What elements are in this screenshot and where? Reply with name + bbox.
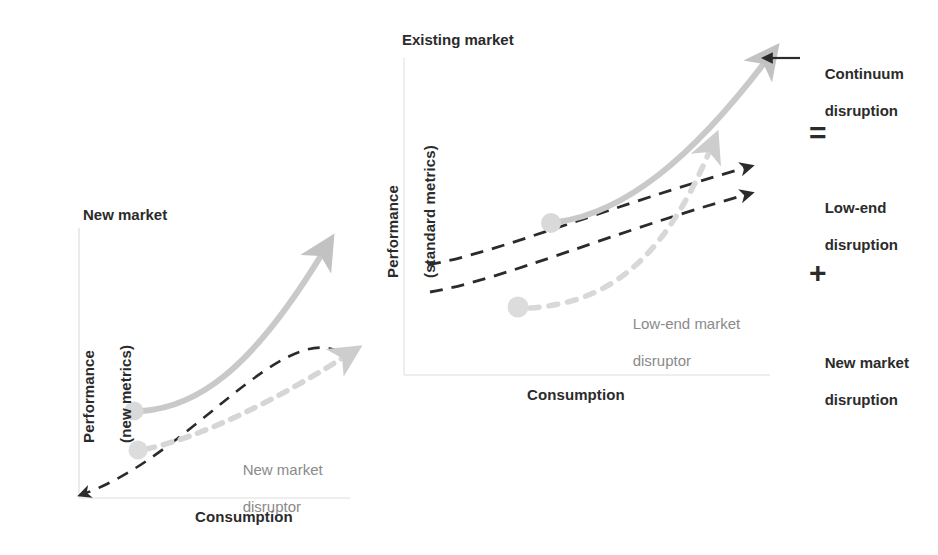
left-disruptor-annotation: New market disruptor xyxy=(226,443,323,534)
right-sustaining-solid-curve xyxy=(558,62,765,222)
right-disruptor-dashed-curve xyxy=(530,150,710,308)
right-panel-title: Existing market xyxy=(402,31,514,49)
diagram-vector-layer xyxy=(0,0,938,555)
right-disruptor-annotation-line1: Low-end market xyxy=(633,315,741,332)
left-panel-title: New market xyxy=(83,206,167,224)
left-sustaining-solid-curve xyxy=(142,254,322,411)
legend-low-end-line1: Low-end xyxy=(825,199,887,216)
legend-low-end-line2: disruption xyxy=(825,236,898,253)
right-high-end-dashed-line xyxy=(428,168,745,265)
left-y-axis-label-line2: (new metrics) xyxy=(117,345,134,443)
right-low-end-dashed-line xyxy=(430,195,745,292)
legend-plus-operator: + xyxy=(809,258,827,288)
left-y-axis-label-line1: Performance xyxy=(80,350,97,443)
right-origin-dot-lower xyxy=(508,297,529,318)
right-chart-series xyxy=(428,62,765,318)
right-disruptor-annotation-line2: disruptor xyxy=(633,352,691,369)
left-disruptor-annotation-line1: New market xyxy=(243,461,323,478)
diagram-canvas: New market Performance (new metrics) Con… xyxy=(0,0,938,555)
left-disruptor-dashed-line xyxy=(146,357,344,449)
legend-continuum-line1: Continuum xyxy=(825,65,904,82)
right-x-axis-label: Consumption xyxy=(527,386,625,404)
legend-equals-operator: = xyxy=(809,118,827,148)
legend-new-market-line1: New market xyxy=(825,354,909,371)
right-y-axis-label-line2: (standard metrics) xyxy=(421,145,438,278)
legend-continuum-line2: disruption xyxy=(825,102,898,119)
right-y-axis-label-line1: Performance xyxy=(384,185,401,278)
left-y-axis-label: Performance (new metrics) xyxy=(62,345,153,460)
right-y-axis-label: Performance (standard metrics) xyxy=(366,145,457,295)
right-origin-dot-upper xyxy=(541,213,561,233)
left-disruptor-annotation-line2: disruptor xyxy=(243,498,301,515)
legend-new-market-disruption: New market disruption xyxy=(808,336,909,427)
legend-new-market-line2: disruption xyxy=(825,391,898,408)
right-disruptor-annotation: Low-end market disruptor xyxy=(616,297,740,388)
